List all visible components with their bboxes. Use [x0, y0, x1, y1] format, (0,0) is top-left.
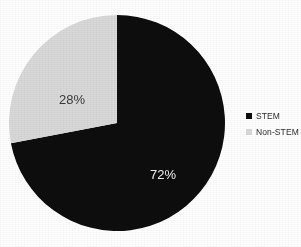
- pie-svg: [8, 12, 226, 233]
- legend-item-stem[interactable]: STEM: [246, 111, 301, 121]
- slice-label-stem: 72%: [150, 167, 176, 182]
- chart-legend: STEM Non-STEM: [246, 111, 301, 143]
- pie-chart-plot-area: 28% 72%: [8, 12, 226, 233]
- legend-label-non-stem: Non-STEM: [256, 127, 299, 137]
- legend-swatch-stem-icon: [246, 113, 252, 119]
- legend-item-non-stem[interactable]: Non-STEM: [246, 127, 301, 137]
- slice-label-non-stem: 28%: [59, 92, 85, 107]
- legend-label-stem: STEM: [256, 111, 280, 121]
- pie-slice-non-stem[interactable]: [9, 15, 117, 143]
- pie-chart-figure: 28% 72% STEM Non-STEM: [0, 0, 301, 247]
- legend-swatch-non-stem-icon: [246, 129, 252, 135]
